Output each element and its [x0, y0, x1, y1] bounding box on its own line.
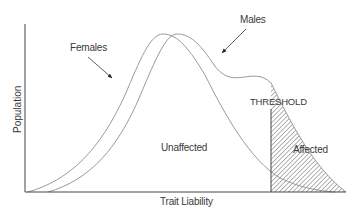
liability-threshold-diagram [0, 0, 362, 215]
male-bell-visible [48, 34, 271, 192]
male-curve-true [48, 34, 271, 192]
male-curve-display [48, 34, 271, 192]
threshold-label: THRESHOLD [250, 96, 307, 107]
male-curve-path [48, 34, 271, 192]
male-curve-drawn [48, 34, 271, 192]
male-curve [48, 34, 271, 192]
male-curve-visible [48, 34, 271, 192]
male-bell-curve-visible [48, 34, 271, 192]
male-bell [48, 34, 271, 192]
males-curve [48, 34, 271, 192]
male-curve-drawing [48, 34, 271, 192]
male-bell-curve [48, 34, 271, 192]
male-curve-visible-smooth [48, 34, 271, 192]
male-stroke [48, 34, 271, 192]
male-curve-smooth [48, 34, 271, 192]
male-bell-final [48, 34, 271, 192]
male-curve-smooth-final [48, 34, 271, 192]
male-bell-shape [48, 34, 271, 192]
male-curve-visible-bell [48, 34, 271, 192]
unaffected-label: Unaffected [161, 142, 207, 153]
x-axis-label: Trait Liability [160, 196, 213, 207]
male-curve-main [48, 34, 271, 192]
male-curve-main-stroke [48, 34, 271, 192]
male-curve-line-visible [48, 34, 271, 192]
male-curve-visible-path [48, 34, 271, 192]
male-curve [48, 34, 271, 192]
male-distribution-curve [48, 34, 271, 192]
females-label: Females [70, 42, 107, 53]
male-curve-path-visible [48, 34, 271, 192]
male-normal-curve [48, 34, 271, 192]
females-arrow-icon [88, 57, 112, 78]
male-curve-ok [48, 34, 271, 192]
male-curve-final-stroke [48, 34, 271, 192]
male-curve-shape [48, 34, 271, 192]
male-curve-stroked [48, 34, 271, 192]
male-curve-final [48, 34, 271, 192]
male-curve-proper [48, 34, 271, 192]
male-curve-final-visible [48, 34, 271, 192]
male-curve-sketch [48, 34, 271, 192]
male-line [48, 34, 271, 192]
male-curve-real [48, 34, 271, 192]
male-curve-visible-final [48, 34, 271, 192]
male-outline [48, 34, 271, 192]
males-arrow-icon [222, 29, 246, 53]
male-curve-outline [48, 34, 271, 192]
male-distribution [48, 34, 271, 192]
y-axis-label: Population [12, 86, 23, 133]
males-label: Males [240, 14, 266, 25]
male-bell-line [48, 34, 271, 192]
affected-label: Affected [293, 144, 328, 155]
male-curve-render [48, 34, 271, 192]
